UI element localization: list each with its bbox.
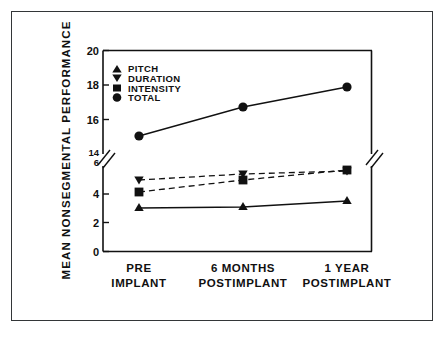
data-point-intensity-pre-implant: [135, 188, 144, 197]
legend-triangle-down-icon: [112, 75, 121, 83]
legend-circle-icon: [113, 93, 122, 102]
chart-legend: PITCH DURATION INTENSITY TOTAL: [112, 63, 181, 103]
x-label-1-year-line2: POSTIMPLANT: [302, 277, 391, 289]
data-point-pitch-pre-implant: [134, 203, 143, 211]
x-label-pre-implant-line2: IMPLANT: [111, 277, 166, 289]
y-axis-title: MEAN NONSEGMENTAL PERFORMANCE: [60, 21, 72, 280]
axis-break-slash-right-2: [371, 153, 383, 168]
x-label-pre-implant-line1: PRE: [126, 262, 151, 274]
data-point-total-pre-implant: [134, 131, 143, 140]
x-axis-category-labels: PRE IMPLANT 6 MONTHS POSTIMPLANT 1 YEAR …: [111, 262, 391, 289]
axis-break-labels: 14 6: [88, 147, 99, 168]
y-tick-label-20: 20: [87, 45, 99, 57]
y-ticks-lower: 4 2 0: [93, 188, 109, 258]
y-tick-label-16: 16: [87, 114, 99, 126]
y-tick-label-2: 2: [93, 217, 99, 229]
axis-break-slash-left-2: [103, 153, 115, 168]
series-intensity: [135, 166, 352, 197]
y-break-label-lower: 6: [94, 157, 99, 168]
x-label-6-months-line2: POSTIMPLANT: [198, 277, 287, 289]
axis-break-slash-left-1: [98, 150, 110, 165]
data-point-intensity-6-months: [239, 176, 248, 185]
legend-label-total: TOTAL: [128, 92, 161, 103]
y-tick-label-0: 0: [93, 246, 99, 258]
legend-square-icon: [113, 85, 121, 92]
data-point-duration-pre-implant: [134, 177, 143, 185]
data-point-pitch-6-months: [238, 202, 247, 210]
x-label-6-months-line1: 6 MONTHS: [211, 262, 275, 274]
figure-root: MEAN NONSEGMENTAL PERFORMANCE 20: [0, 0, 447, 343]
data-point-total-6-months: [238, 102, 247, 111]
line-chart: MEAN NONSEGMENTAL PERFORMANCE 20: [0, 0, 447, 343]
x-label-1-year-line1: 1 YEAR: [325, 262, 370, 274]
y-ticks-upper: 20 18 16: [87, 45, 109, 126]
axis-break-marks: [98, 150, 383, 168]
data-point-intensity-1-year: [343, 166, 352, 175]
series-pitch: [134, 196, 351, 211]
y-tick-label-18: 18: [87, 79, 99, 91]
legend-triangle-up-icon: [112, 65, 121, 73]
data-point-pitch-1-year: [342, 196, 351, 204]
y-tick-label-4: 4: [93, 188, 100, 200]
data-point-total-1-year: [342, 82, 351, 91]
